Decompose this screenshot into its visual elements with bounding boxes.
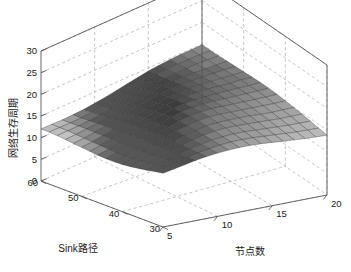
x-axis-title: 节点数 — [235, 245, 265, 257]
svg-text:网络生存周期: 网络生存周期 — [7, 98, 19, 158]
tick-label: 5 — [167, 230, 172, 241]
tick-label: 10 — [26, 132, 37, 143]
figure-canvas: 051015202530304050605101520 网络生存周期 Sink路… — [0, 0, 351, 272]
tick-label: 60 — [27, 177, 38, 188]
tick-label: 40 — [109, 208, 120, 219]
tick-label: 20 — [26, 89, 37, 100]
svg-text:Sink路径: Sink路径 — [58, 242, 97, 254]
svg-text:节点数: 节点数 — [235, 245, 265, 257]
tick-label: 30 — [26, 45, 37, 56]
tick-label: 15 — [26, 110, 37, 121]
y-axis-title: Sink路径 — [58, 242, 97, 254]
tick-label: 5 — [32, 154, 37, 165]
tick-label: 30 — [149, 223, 160, 234]
surface-plot-svg: 051015202530304050605101520 网络生存周期 Sink路… — [0, 0, 351, 272]
tick-label: 20 — [331, 198, 342, 209]
tick-label: 15 — [276, 208, 287, 219]
tick-label: 50 — [68, 192, 79, 203]
tick-label: 25 — [26, 67, 37, 78]
z-axis-title: 网络生存周期 — [7, 98, 19, 158]
tick-label: 10 — [222, 219, 233, 230]
